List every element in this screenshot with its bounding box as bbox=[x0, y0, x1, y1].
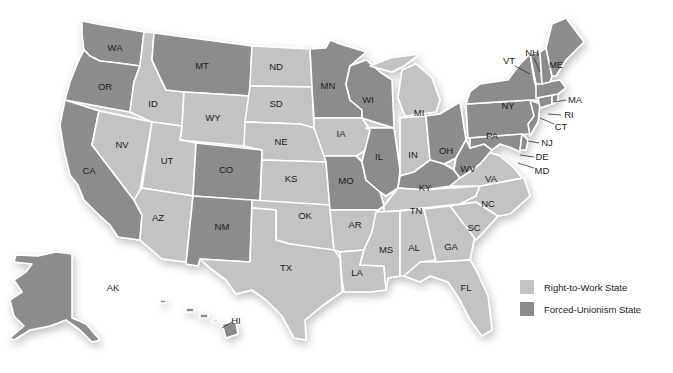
label-il: IL bbox=[375, 151, 383, 162]
label-sc: SC bbox=[467, 222, 480, 233]
legend-swatch-right-to-work bbox=[520, 280, 534, 294]
state-de[interactable] bbox=[520, 134, 528, 150]
label-ky: KY bbox=[419, 182, 432, 193]
label-ga: GA bbox=[444, 241, 458, 252]
legend-swatch-forced-unionism bbox=[520, 302, 534, 316]
label-ms: MS bbox=[379, 244, 393, 255]
label-me: ME bbox=[549, 59, 563, 70]
label-nv: NV bbox=[115, 139, 129, 150]
label-ks: KS bbox=[285, 173, 298, 184]
label-ak: AK bbox=[107, 282, 120, 293]
label-ar: AR bbox=[348, 219, 361, 230]
label-ia: IA bbox=[337, 128, 347, 139]
label-or: OR bbox=[98, 81, 112, 92]
legend-item-forced-unionism: Forced-Unionism State bbox=[520, 298, 641, 320]
label-id: ID bbox=[148, 98, 158, 109]
state-fl[interactable] bbox=[404, 260, 492, 336]
label-tn: TN bbox=[410, 205, 423, 216]
label-ri: RI bbox=[564, 109, 574, 120]
label-in: IN bbox=[408, 149, 418, 160]
label-ma: MA bbox=[568, 94, 583, 105]
state-ak[interactable] bbox=[10, 252, 100, 342]
label-az: AZ bbox=[152, 212, 164, 223]
label-ne: NE bbox=[274, 136, 287, 147]
label-al: AL bbox=[408, 242, 420, 253]
label-wy: WY bbox=[205, 112, 221, 123]
label-wv: WV bbox=[460, 163, 476, 174]
label-nh: NH bbox=[525, 47, 539, 58]
label-pa: PA bbox=[486, 130, 499, 141]
label-wa: WA bbox=[108, 42, 124, 53]
label-va: VA bbox=[485, 173, 498, 184]
label-oh: OH bbox=[439, 145, 453, 156]
legend-item-right-to-work: Right-to-Work State bbox=[520, 276, 641, 298]
label-ut: UT bbox=[161, 155, 174, 166]
label-de: DE bbox=[535, 151, 548, 162]
legend-label-forced-unionism: Forced-Unionism State bbox=[544, 304, 641, 315]
legend-label-right-to-work: Right-to-Work State bbox=[544, 282, 627, 293]
label-mi: MI bbox=[414, 107, 425, 118]
label-mo: MO bbox=[338, 175, 353, 186]
label-mt: MT bbox=[195, 60, 209, 71]
label-mn: MN bbox=[321, 80, 336, 91]
legend: Right-to-Work State Forced-Unionism Stat… bbox=[520, 276, 641, 320]
label-ny: NY bbox=[501, 100, 515, 111]
label-nd: ND bbox=[269, 61, 283, 72]
label-tx: TX bbox=[280, 262, 293, 273]
label-sd: SD bbox=[269, 98, 282, 109]
label-nj: NJ bbox=[541, 137, 553, 148]
label-la: LA bbox=[351, 267, 363, 278]
label-fl: FL bbox=[460, 282, 471, 293]
label-hi: HI bbox=[231, 315, 241, 326]
label-ok: OK bbox=[298, 210, 312, 221]
label-nc: NC bbox=[481, 198, 495, 209]
label-wi: WI bbox=[362, 94, 374, 105]
label-nm: NM bbox=[215, 221, 230, 232]
state-hi[interactable] bbox=[160, 300, 238, 338]
label-ct: CT bbox=[555, 121, 568, 132]
label-vt: VT bbox=[503, 55, 515, 66]
state-az[interactable] bbox=[134, 188, 193, 262]
label-ca: CA bbox=[82, 165, 96, 176]
label-co: CO bbox=[219, 164, 233, 175]
label-md: MD bbox=[535, 165, 550, 176]
